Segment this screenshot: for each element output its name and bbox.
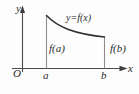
- x-axis-arrowhead: [120, 66, 128, 72]
- x-axis-label: x: [128, 63, 133, 74]
- x-tick-label-a: a: [43, 70, 49, 81]
- figure-container: y x O a b f(a) f(b) y=f(x): [0, 0, 139, 94]
- y-axis-label: y: [16, 3, 21, 14]
- x-tick-label-b: b: [101, 70, 107, 81]
- origin-label: O: [13, 68, 21, 79]
- ordinate-label-fa: f(a): [49, 43, 65, 54]
- curve-label: y=f(x): [66, 13, 91, 23]
- ordinate-label-fb: f(b): [110, 43, 126, 54]
